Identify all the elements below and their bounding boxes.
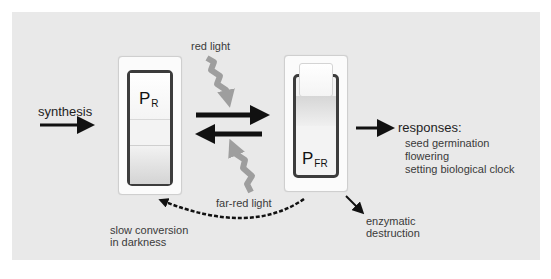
enzymatic-label-line2: destruction (366, 227, 420, 240)
pfr-label: PFR (302, 149, 328, 169)
synthesis-label: synthesis (38, 104, 92, 119)
response-item: setting biological clock (405, 163, 514, 176)
pr-label: PR (139, 89, 159, 109)
far-red-light-label: far-red light (216, 197, 272, 210)
pfr-rocker-middle (296, 96, 336, 126)
slow-conversion-label-line2: in darkness (110, 236, 166, 249)
pr-switch: PR (118, 56, 182, 195)
pfr-label-subscript: FR (314, 158, 327, 169)
red-light-wavy-arrow (207, 58, 228, 99)
pr-label-subscript: R (151, 98, 158, 109)
far-red-light-wavy-arrow (233, 147, 252, 192)
response-item: seed germination (405, 137, 514, 150)
response-item: flowering (405, 150, 514, 163)
pr-rocker-bottom (130, 145, 170, 184)
enzymatic-destruction-arrow (346, 196, 360, 210)
pfr-switch: PFR (284, 55, 348, 192)
responses-title: responses: (398, 120, 462, 135)
pfr-switch-frame: PFR (293, 74, 339, 178)
red-light-label: red light (191, 40, 230, 53)
responses-list: seed germination flowering setting biolo… (405, 137, 514, 176)
pfr-rocker-top (299, 63, 333, 97)
pr-switch-frame: PR (127, 70, 173, 186)
